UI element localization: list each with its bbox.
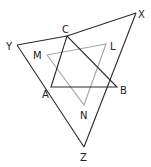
label-l: L <box>110 41 116 52</box>
label-y: Y <box>5 41 13 52</box>
triangle-lmn <box>47 44 106 105</box>
label-m: M <box>33 50 42 61</box>
label-b: B <box>120 85 127 96</box>
segment-yx <box>17 13 136 45</box>
label-z: Z <box>80 152 87 163</box>
geometry-diagram: X Y C M L A B N Z <box>0 0 151 167</box>
label-n: N <box>80 110 87 121</box>
label-a: A <box>42 89 49 100</box>
label-c: C <box>62 24 69 35</box>
segment-xz <box>84 13 136 147</box>
triangle-abc <box>51 36 117 87</box>
label-x: X <box>138 9 145 20</box>
